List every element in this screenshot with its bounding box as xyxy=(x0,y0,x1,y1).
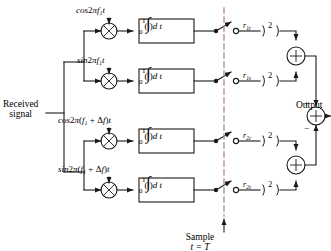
fsk-demodulator-diagram: cos2πf1t sin2πf1t cos2π(f1 + Δf)t sin2π(… xyxy=(0,0,331,251)
square-exponent-2c: 2 xyxy=(268,131,272,140)
integrator-expr-1c: ∫T0( )d t xyxy=(146,22,176,31)
carrier-label-1c: cos2πf1t xyxy=(76,6,105,16)
output-summer-minus-sign: − xyxy=(304,124,309,133)
integrator-expr-2c: ∫T0( )d t xyxy=(146,132,176,141)
square-exponent-1c: 2 xyxy=(268,21,272,30)
sampler-switch-1c xyxy=(214,22,239,34)
received-signal-line2: signal xyxy=(3,110,38,120)
signal-label-r1s: r1s xyxy=(243,72,251,81)
diagram-canvas xyxy=(0,0,331,251)
sample-label-line2: t = T xyxy=(186,243,215,251)
sampler-switch-2c xyxy=(214,132,239,144)
signal-label-r2s: r2s xyxy=(243,181,251,190)
integrator-expr-2s: ∫T0( )d t xyxy=(146,181,176,190)
received-signal-label: Received signal xyxy=(3,100,38,119)
carrier-label-2s: sin2π(f1 + Δf)t xyxy=(58,165,110,175)
upper-sum-to-output xyxy=(305,56,316,103)
square-exponent-1s: 2 xyxy=(268,71,272,80)
sample-label: Sample t = T xyxy=(186,233,215,251)
output-label: Output xyxy=(296,101,322,111)
integrator-expr-1s: ∫T0( )d t xyxy=(146,72,176,81)
lower-sum-to-output xyxy=(305,128,316,165)
signal-label-r1c: r1c xyxy=(243,22,251,31)
sampler-switch-2s xyxy=(214,181,239,193)
carrier-label-2c: cos2π(f1 + Δf)t xyxy=(58,116,111,126)
received-signal-line1: Received xyxy=(3,99,38,109)
square-exponent-2s: 2 xyxy=(268,180,272,189)
carrier-label-1s: sin2πf1t xyxy=(77,56,105,66)
sampler-switch-1s xyxy=(214,72,239,84)
signal-label-r2c: r2c xyxy=(243,132,251,141)
sample-label-line1: Sample xyxy=(186,232,215,242)
